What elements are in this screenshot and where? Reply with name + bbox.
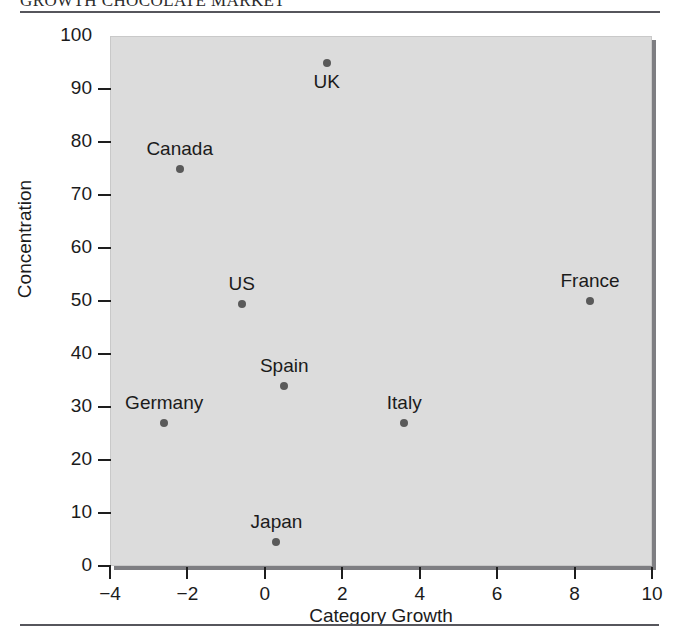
y-axis-title: Concentration bbox=[14, 139, 36, 339]
data-point-label: UK bbox=[237, 71, 417, 93]
x-axis-tick-mark bbox=[574, 567, 576, 579]
data-point-label: Italy bbox=[314, 392, 494, 414]
x-axis-tick-label: 8 bbox=[545, 583, 605, 605]
data-point-label: Spain bbox=[194, 355, 374, 377]
footer-divider bbox=[20, 624, 659, 626]
y-axis-tick-mark bbox=[98, 194, 111, 196]
y-axis-tick-mark bbox=[98, 512, 111, 514]
scatter-chart: 0102030405060708090100 −4−20246810 UKCan… bbox=[0, 0, 679, 638]
x-axis-tick-label: 0 bbox=[235, 583, 295, 605]
x-axis-tick-mark bbox=[651, 567, 653, 579]
data-point-label: Japan bbox=[186, 511, 366, 533]
data-point-label: Canada bbox=[90, 138, 270, 160]
x-axis-tick-label: −4 bbox=[80, 583, 140, 605]
data-point-marker[interactable] bbox=[586, 297, 594, 305]
y-axis-tick-mark bbox=[98, 353, 111, 355]
x-axis-tick-mark bbox=[496, 567, 498, 579]
data-point-marker[interactable] bbox=[280, 382, 288, 390]
data-point-label: Germany bbox=[74, 392, 254, 414]
data-point-marker[interactable] bbox=[323, 59, 331, 67]
x-axis-tick-mark bbox=[264, 567, 266, 579]
y-axis-tick-mark bbox=[98, 300, 111, 302]
x-axis-tick-mark bbox=[109, 567, 111, 579]
y-axis-tick-label: 20 bbox=[0, 448, 92, 470]
y-axis-tick-label: 0 bbox=[0, 554, 92, 576]
x-axis-tick-mark bbox=[419, 567, 421, 579]
x-axis-tick-label: 4 bbox=[390, 583, 450, 605]
y-axis-tick-mark bbox=[98, 247, 111, 249]
y-axis-tick-label: 90 bbox=[0, 77, 92, 99]
y-axis-tick-label: 100 bbox=[0, 24, 92, 46]
x-axis-tick-label: 2 bbox=[312, 583, 372, 605]
x-axis-tick-mark bbox=[186, 567, 188, 579]
y-axis-tick-label: 10 bbox=[0, 501, 92, 523]
x-axis-tick-label: 6 bbox=[467, 583, 527, 605]
x-axis-tick-label: 10 bbox=[622, 583, 679, 605]
y-axis-tick-mark bbox=[98, 88, 111, 90]
data-point-marker[interactable] bbox=[176, 165, 184, 173]
y-axis-tick-label: 40 bbox=[0, 342, 92, 364]
x-axis-tick-label: −2 bbox=[157, 583, 217, 605]
x-axis-tick-mark bbox=[341, 567, 343, 579]
plot-area bbox=[110, 36, 652, 566]
y-axis-tick-mark bbox=[98, 459, 111, 461]
data-point-marker[interactable] bbox=[238, 300, 246, 308]
data-point-label: US bbox=[152, 273, 332, 295]
data-point-label: France bbox=[500, 270, 679, 292]
